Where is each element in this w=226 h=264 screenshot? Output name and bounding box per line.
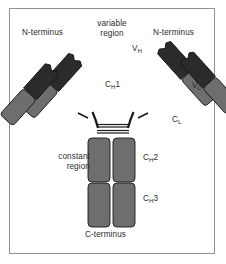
label-ch2-num: 2 bbox=[154, 153, 159, 162]
label-constant-region: constant region bbox=[34, 152, 90, 171]
label-constant-region-line2: region bbox=[67, 162, 90, 171]
light-heavy-disulfide-right bbox=[138, 113, 148, 118]
label-ch2: CH2 bbox=[143, 153, 158, 163]
label-vl: VL bbox=[192, 81, 201, 91]
antibody-diagram bbox=[0, 0, 226, 264]
label-ch2-sub: H bbox=[149, 156, 154, 163]
domain-ch2-right bbox=[113, 138, 135, 182]
label-ch3-num: 3 bbox=[154, 194, 159, 203]
label-variable-region: variable region bbox=[84, 19, 140, 38]
label-ch1-num: 1 bbox=[116, 80, 121, 89]
label-c-terminus: C-terminus bbox=[85, 230, 126, 240]
label-ch3-sub: H bbox=[149, 197, 154, 204]
label-cl: CL bbox=[172, 115, 182, 125]
disulfide-bonds bbox=[97, 125, 129, 134]
domain-ch2-left bbox=[88, 138, 110, 182]
label-variable-region-line2: region bbox=[100, 29, 123, 38]
label-cl-sub: L bbox=[178, 118, 182, 125]
figure-root: N-terminus N-terminus variable region VH… bbox=[0, 0, 226, 264]
label-vh: VH bbox=[132, 44, 142, 54]
label-vl-main: V bbox=[192, 81, 198, 90]
hinge-strand-right bbox=[128, 112, 134, 128]
label-vh-main: V bbox=[132, 44, 138, 53]
label-ch1-sub: H bbox=[111, 83, 116, 90]
label-n-terminus-left: N-terminus bbox=[22, 28, 63, 38]
label-variable-region-line1: variable bbox=[97, 19, 126, 28]
domain-ch3-right bbox=[113, 183, 135, 227]
label-n-terminus-right: N-terminus bbox=[153, 28, 194, 38]
hinge-strand-left bbox=[93, 112, 99, 128]
label-constant-region-line1: constant bbox=[58, 152, 90, 161]
domain-ch3-left bbox=[88, 183, 110, 227]
light-heavy-disulfide-left bbox=[78, 113, 88, 118]
label-vl-sub: L bbox=[198, 84, 202, 91]
label-vh-sub: H bbox=[138, 47, 143, 54]
label-ch1: CH1 bbox=[105, 80, 120, 90]
label-ch3: CH3 bbox=[143, 194, 158, 204]
